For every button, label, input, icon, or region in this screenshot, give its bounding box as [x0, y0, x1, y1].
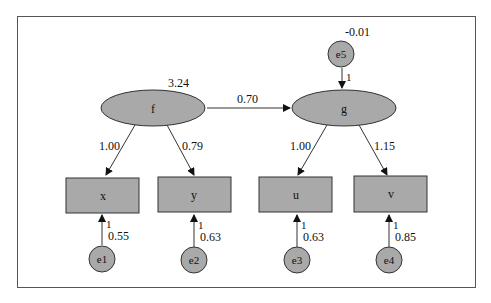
error-label-e2: e2 [189, 254, 199, 266]
diagram-frame [18, 17, 476, 288]
error-label-e1: e1 [97, 253, 107, 265]
variance-e4: 0.85 [395, 230, 416, 244]
observed-label-v: v [388, 187, 394, 201]
variance-e1: 0.55 [108, 229, 129, 243]
variance-f: 3.24 [168, 76, 189, 90]
error-label-e4: e4 [384, 254, 395, 266]
error-label-e3: e3 [292, 254, 303, 266]
path-coef-e5: 1 [346, 71, 352, 83]
latent-label-f: f [151, 102, 155, 116]
observed-label-x: x [100, 189, 106, 203]
path-label-f-x: 1.00 [99, 139, 120, 153]
observed-label-u: u [293, 188, 299, 202]
path-label-g-v: 1.15 [374, 139, 395, 153]
path-label-f-g: 0.70 [237, 92, 258, 106]
variance-e5: -0.01 [345, 25, 370, 39]
variance-e2: 0.63 [200, 230, 221, 244]
variance-e3: 0.63 [303, 230, 324, 244]
path-label-g-u: 1.00 [290, 139, 311, 153]
path-label-f-y: 0.79 [182, 139, 203, 153]
observed-label-y: y [191, 188, 197, 202]
latent-label-g: g [341, 102, 347, 116]
sem-diagram: 0.70 1.00 0.79 1.00 1.15 1 f 3.24 g e5 -… [0, 0, 491, 303]
error-label-e5: e5 [336, 48, 347, 60]
